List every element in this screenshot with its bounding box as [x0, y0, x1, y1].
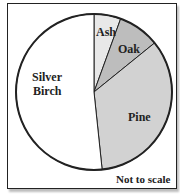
label-oak: Oak — [118, 42, 140, 56]
label-silver: Silver — [32, 70, 63, 84]
label-pine: Pine — [128, 110, 151, 124]
pie-chart: Ash Oak Pine Silver Birch Not to scale — [0, 0, 180, 195]
not-to-scale-note: Not to scale — [116, 173, 170, 185]
label-ash: Ash — [96, 25, 116, 39]
label-birch: Birch — [33, 84, 62, 98]
